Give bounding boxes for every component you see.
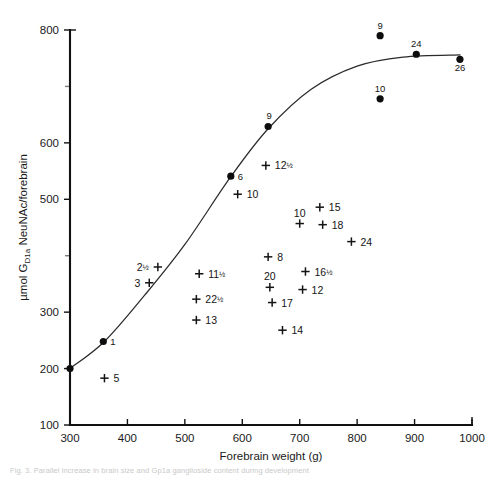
point-label: 20 [264, 270, 276, 282]
filled-circle-marker [100, 338, 107, 345]
axis-titles: Forebrain weight (g)µmol GD1a NeuNAc/for… [17, 154, 323, 462]
x-tick-label: 300 [60, 432, 79, 444]
fitted-curve [70, 55, 461, 369]
filled-circle-marker [66, 365, 73, 372]
point-label: 2½ [137, 261, 150, 273]
plus-marker-series: 52½322½1311½1012½820171410151816½1224 [100, 159, 372, 384]
figure-container: 1002003005006008003004005006007008009001… [0, 0, 490, 483]
figure-caption: Fig. 3. Parallel increase in brain size … [10, 466, 480, 475]
point-label: 16½ [314, 266, 333, 278]
point-label: 12½ [275, 159, 294, 171]
x-tick-label: 800 [348, 432, 367, 444]
point-label: 8 [277, 251, 283, 263]
data-point: 10 [375, 83, 386, 103]
x-tick-label: 600 [233, 432, 252, 444]
plus-marker: 2½ [137, 261, 162, 273]
plus-marker: 5 [100, 372, 119, 384]
filled-circle-marker [377, 95, 384, 102]
point-label: 22½ [205, 293, 224, 305]
x-tick-label: 700 [290, 432, 309, 444]
data-point [66, 365, 73, 372]
plus-marker: 11½ [195, 268, 226, 280]
x-tick-label: 900 [405, 432, 424, 444]
point-label: 10 [294, 207, 306, 219]
y-tick-label: 800 [40, 24, 59, 36]
plus-marker: 13 [192, 314, 217, 326]
plus-marker: 22½ [192, 293, 224, 305]
curve-path [70, 55, 461, 369]
y-tick-label: 200 [40, 363, 59, 375]
point-label: 17 [281, 297, 293, 309]
plus-marker: 18 [318, 219, 343, 231]
y-tick-label: 300 [40, 306, 59, 318]
plus-marker: 24 [347, 236, 372, 248]
plus-marker: 12 [298, 284, 323, 296]
point-label: 15 [329, 201, 341, 213]
x-tick-label: 1000 [459, 432, 485, 444]
filled-circle-marker [377, 32, 384, 39]
axis-lines [70, 30, 472, 425]
data-point: 24 [411, 38, 422, 58]
data-point: 9 [377, 20, 384, 40]
filled-circle-marker [227, 173, 234, 180]
point-label: 9 [377, 20, 382, 31]
point-label: 10 [375, 83, 386, 94]
y-tick-label: 500 [40, 193, 59, 205]
data-point: 9 [265, 110, 272, 130]
point-label: 24 [360, 236, 372, 248]
point-label: 3 [134, 277, 140, 289]
x-tick-label: 500 [175, 432, 194, 444]
plus-marker: 12½ [262, 159, 294, 171]
point-label: 10 [247, 188, 259, 200]
point-label: 18 [332, 219, 344, 231]
plus-marker: 15 [316, 201, 341, 213]
point-label: 13 [205, 314, 217, 326]
point-label: 5 [113, 372, 119, 384]
x-axis-title: Forebrain weight (g) [220, 450, 323, 462]
scatter-plot: 1002003005006008003004005006007008009001… [0, 0, 490, 483]
point-label: 24 [411, 38, 422, 49]
axes: 1002003005006008003004005006007008009001… [40, 24, 485, 444]
y-axis-title: µmol GD1a NeuNAc/forebrain [17, 154, 32, 301]
x-tick-label: 400 [118, 432, 137, 444]
plus-marker: 16½ [301, 266, 333, 278]
plus-marker: 10 [233, 188, 258, 200]
point-label: 9 [266, 110, 271, 121]
point-label: 12 [312, 284, 324, 296]
plus-marker: 10 [294, 207, 306, 228]
point-label: 1 [110, 336, 115, 347]
plus-marker: 14 [278, 324, 303, 336]
data-point: 6 [227, 171, 243, 182]
data-point: 26 [455, 56, 466, 74]
y-tick-label: 600 [40, 137, 59, 149]
point-label: 26 [455, 62, 466, 73]
plus-marker: 20 [264, 270, 276, 291]
plus-marker: 3 [134, 277, 153, 289]
point-label: 14 [291, 324, 303, 336]
filled-circle-marker [413, 51, 420, 58]
point-label: 11½ [208, 268, 226, 280]
y-tick-label: 100 [40, 419, 59, 431]
plus-marker: 8 [264, 251, 283, 263]
filled-circle-series: 1699102426 [66, 20, 465, 373]
point-label: 6 [238, 171, 243, 182]
plus-marker: 17 [268, 297, 293, 309]
filled-circle-marker [265, 123, 272, 130]
